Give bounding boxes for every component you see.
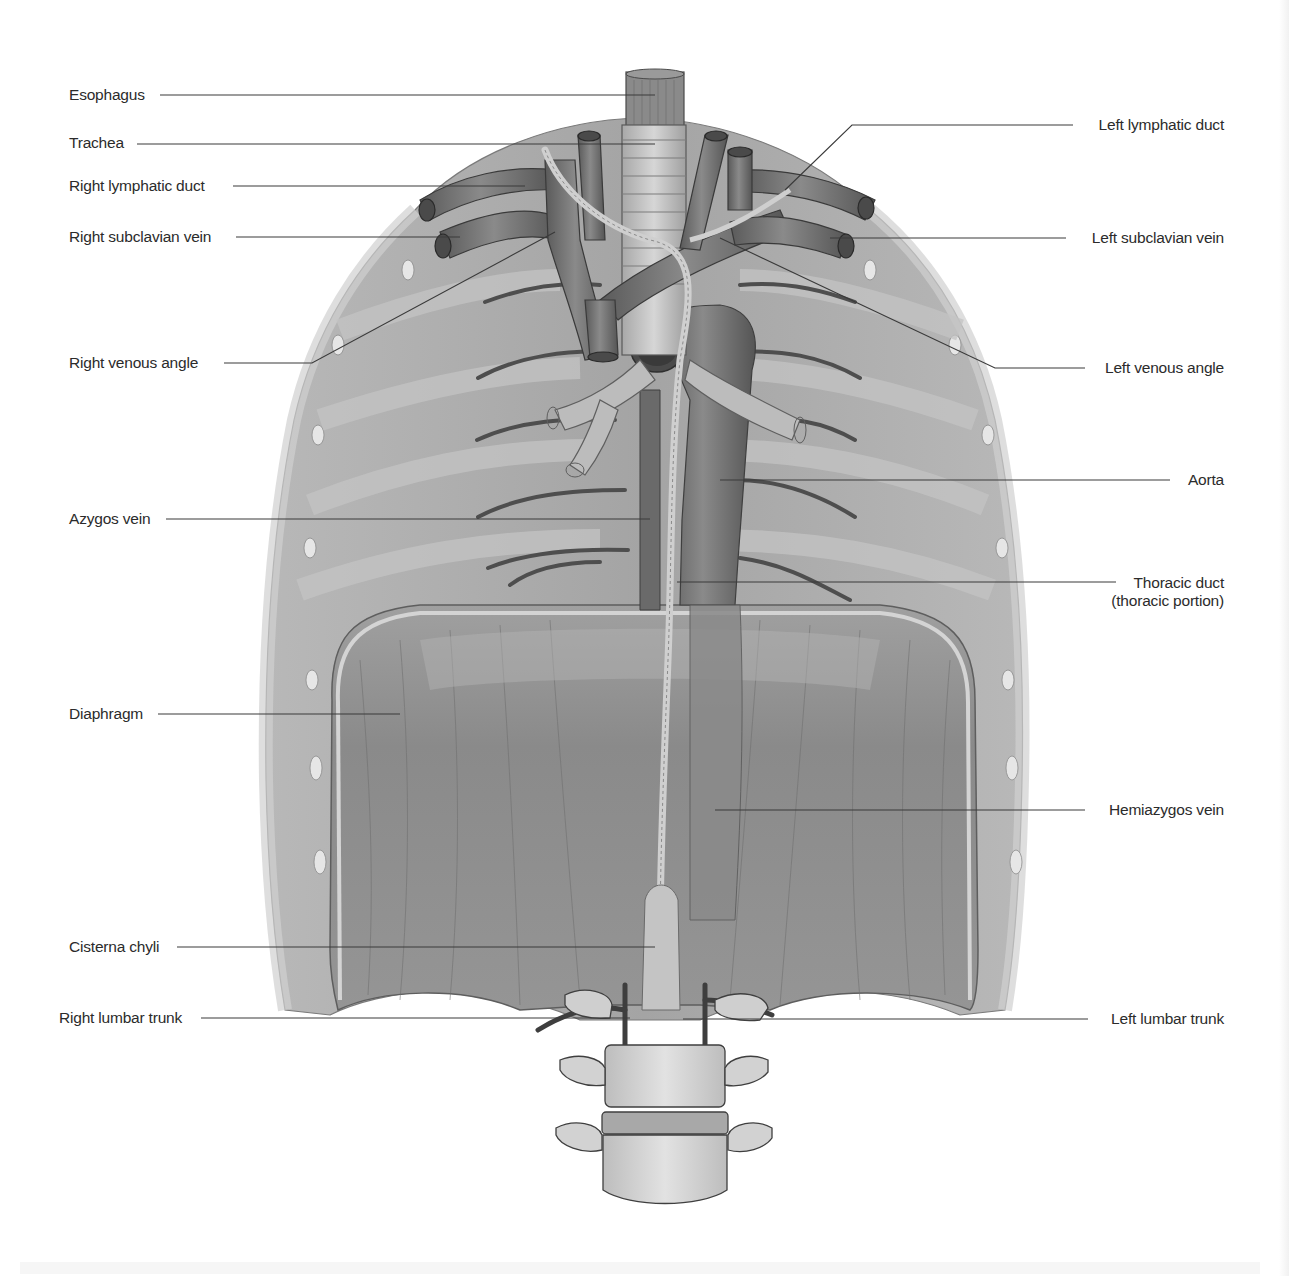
- label-right-subclavian-vein: Right subclavian vein: [69, 228, 211, 246]
- label-left-lymphatic-duct: Left lymphatic duct: [1099, 116, 1224, 134]
- label-left-venous-angle: Left venous angle: [1105, 359, 1224, 377]
- label-left-lumbar-trunk: Left lumbar trunk: [1111, 1010, 1224, 1028]
- label-right-lumbar-trunk: Right lumbar trunk: [59, 1009, 182, 1027]
- label-thoracic-duct: Thoracic duct (thoracic portion): [1111, 574, 1224, 610]
- lumbar-spine: [556, 990, 772, 1203]
- label-trachea: Trachea: [69, 134, 124, 152]
- page-edge-shadow: [1279, 0, 1289, 1276]
- label-hemiazygos-vein: Hemiazygos vein: [1109, 801, 1224, 819]
- label-thoracic-duct-line2: (thoracic portion): [1111, 592, 1224, 610]
- bottom-scan-band: [20, 1262, 1260, 1274]
- label-esophagus: Esophagus: [69, 86, 145, 104]
- label-azygos-vein: Azygos vein: [69, 510, 150, 528]
- label-right-lymphatic-duct: Right lymphatic duct: [69, 177, 205, 195]
- anatomy-figure: Esophagus Trachea Right lymphatic duct R…: [0, 0, 1289, 1276]
- label-left-subclavian-vein: Left subclavian vein: [1092, 229, 1224, 247]
- azygos-vessel: [640, 390, 660, 610]
- label-thoracic-duct-line1: Thoracic duct: [1111, 574, 1224, 592]
- label-aorta: Aorta: [1188, 471, 1224, 489]
- label-diaphragm: Diaphragm: [69, 705, 143, 723]
- label-right-venous-angle: Right venous angle: [69, 354, 198, 372]
- label-cisterna-chyli: Cisterna chyli: [69, 938, 159, 956]
